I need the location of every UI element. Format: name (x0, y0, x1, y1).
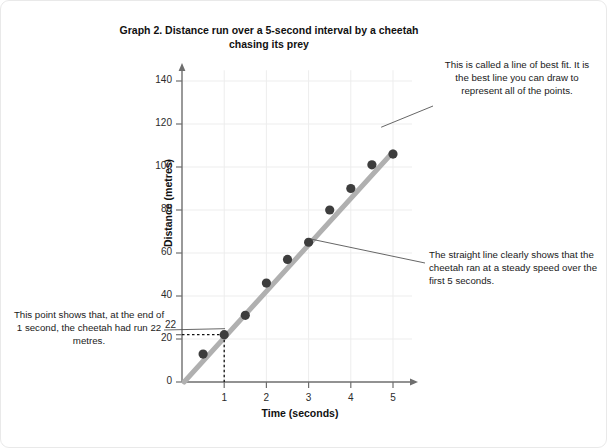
y-tick-label-0: 0 (136, 375, 172, 386)
chart-page: Graph 2. Distance run over a 5-second in… (0, 0, 607, 448)
annotation-best-fit: This is called a line of best fit. It is… (437, 58, 597, 98)
annotation-steady-speed: The straight line clearly shows that the… (429, 248, 601, 288)
x-tick-label-3: 3 (299, 392, 319, 403)
y-tick-label-100: 100 (136, 160, 172, 171)
y-tick-label-80: 80 (136, 203, 172, 214)
y-tick-label-120: 120 (136, 117, 172, 128)
y-tick-label-60: 60 (136, 246, 172, 257)
x-tick-label-2: 2 (256, 392, 276, 403)
x-tick-label-5: 5 (383, 392, 403, 403)
y-tick-label-140: 140 (136, 74, 172, 85)
gridlines (182, 70, 412, 382)
axes (179, 63, 418, 385)
axis-ticks (176, 81, 393, 388)
x-tick-label-4: 4 (341, 392, 361, 403)
x-axis-title: Time (seconds) (215, 407, 385, 419)
line-of-best-fit (184, 152, 393, 382)
annotation-point-value: This point shows that, at the end of 1 s… (13, 308, 165, 348)
x-tick-label-1: 1 (214, 392, 234, 403)
y-tick-label-40: 40 (136, 289, 172, 300)
